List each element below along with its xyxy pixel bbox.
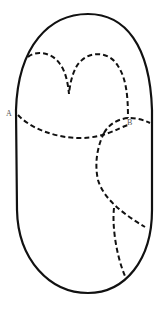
- b-lower-dashed-curve: [96, 133, 145, 227]
- outer-outline: [16, 14, 152, 293]
- label-b: B: [127, 119, 132, 127]
- branch-dashed-curve: [113, 208, 125, 276]
- label-a: A: [6, 110, 12, 118]
- diagram-canvas: [0, 0, 165, 309]
- heart-dashed-curve: [28, 53, 128, 118]
- a-to-right-dashed-curve: [18, 115, 128, 138]
